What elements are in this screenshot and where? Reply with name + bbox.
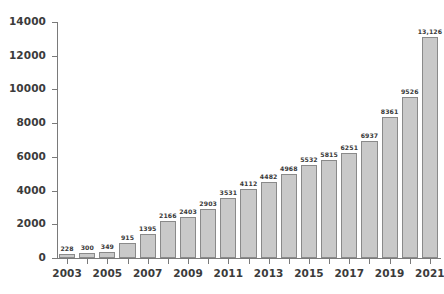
x-axis-tick-mark: [67, 259, 68, 264]
bar-value-label: 2403: [179, 208, 197, 215]
chart-title-clipped: [0, 0, 444, 5]
x-axis-tick-label: 2013: [254, 267, 284, 279]
bar: [301, 165, 317, 258]
y-axis-tick-label: 8000: [16, 116, 46, 128]
bar: [361, 141, 377, 258]
x-axis-tick-mark: [309, 259, 310, 264]
bar-value-label: 13,126: [418, 28, 442, 35]
y-axis-tick-mark: [52, 56, 57, 57]
bar-value-label: 9526: [401, 88, 419, 95]
x-axis-tick-mark: [249, 259, 250, 264]
bar-value-label: 915: [121, 234, 134, 241]
bar: [79, 253, 95, 258]
bar: [200, 209, 216, 258]
x-axis-tick-label: 2011: [214, 267, 244, 279]
bar-value-label: 4112: [240, 180, 258, 187]
bar-value-label: 4482: [260, 173, 278, 180]
x-axis-tick-mark: [208, 259, 209, 264]
bar: [281, 174, 297, 258]
x-axis-tick-mark: [107, 259, 108, 264]
y-axis-tick-mark: [52, 89, 57, 90]
bar-value-label: 8361: [381, 108, 399, 115]
y-axis-tick-mark: [52, 123, 57, 124]
bar: [341, 153, 357, 258]
bar-value-label: 349: [101, 243, 114, 250]
x-axis-tick-label: 2021: [415, 267, 444, 279]
bar-value-label: 4968: [280, 165, 298, 172]
x-axis-tick-mark: [188, 259, 189, 264]
x-axis-tick-mark: [128, 259, 129, 264]
y-axis-tick-mark: [52, 258, 57, 259]
x-axis-tick-mark: [369, 259, 370, 264]
y-axis-tick-label: 2000: [16, 217, 46, 229]
x-axis-tick-mark: [148, 259, 149, 264]
x-axis-tick-mark: [269, 259, 270, 264]
bar-value-label: 6937: [361, 132, 379, 139]
bar-value-label: 2903: [199, 200, 217, 207]
x-axis-tick-label: 2015: [294, 267, 324, 279]
bar: [261, 182, 277, 258]
x-axis-tick-mark: [430, 259, 431, 264]
bar: [321, 160, 337, 258]
y-axis-tick-label: 14000: [9, 15, 46, 27]
y-axis-tick-mark: [52, 22, 57, 23]
bar: [99, 252, 115, 258]
x-axis-tick-mark: [349, 259, 350, 264]
bar: [59, 254, 75, 258]
bar: [160, 221, 176, 258]
x-axis-tick-mark: [168, 259, 169, 264]
x-axis-tick-mark: [410, 259, 411, 264]
y-axis-tick-label: 10000: [9, 82, 46, 94]
bar-value-label: 6251: [340, 144, 358, 151]
bar: [382, 117, 398, 258]
x-axis-tick-label: 2007: [133, 267, 163, 279]
x-axis-tick-label: 2017: [334, 267, 364, 279]
bar: [402, 97, 418, 258]
y-axis-tick-label: 0: [39, 251, 46, 263]
x-axis-tick-mark: [390, 259, 391, 264]
bar: [220, 198, 236, 258]
x-axis-tick-mark: [228, 259, 229, 264]
bar-value-label: 1395: [139, 225, 157, 232]
bar-value-label: 5532: [300, 156, 318, 163]
y-axis-tick-mark: [52, 224, 57, 225]
y-axis-tick-mark: [52, 157, 57, 158]
y-axis-tick-mark: [52, 191, 57, 192]
y-axis-spine: [57, 22, 58, 259]
bar: [140, 234, 156, 258]
y-axis-tick-label: 4000: [16, 184, 46, 196]
x-axis-tick-label: 2005: [93, 267, 123, 279]
y-axis-tick-label: 6000: [16, 150, 46, 162]
x-axis-tick-label: 2003: [52, 267, 82, 279]
x-axis-tick-label: 2019: [375, 267, 405, 279]
bar: [119, 243, 135, 258]
bar-value-label: 228: [60, 245, 73, 252]
bar: [180, 217, 196, 258]
chart-page: 02000400060008000100001200014000 2003200…: [0, 0, 444, 294]
x-axis-tick-mark: [289, 259, 290, 264]
x-axis-tick-mark: [87, 259, 88, 264]
bar: [422, 37, 438, 258]
bar-value-label: 3531: [220, 189, 238, 196]
x-axis-tick-mark: [329, 259, 330, 264]
bar: [240, 189, 256, 258]
x-axis-tick-label: 2009: [173, 267, 203, 279]
bar-value-label: 2166: [159, 212, 177, 219]
bar-value-label: 300: [81, 244, 94, 251]
bar-value-label: 5815: [320, 151, 338, 158]
y-axis-tick-label: 12000: [9, 49, 46, 61]
